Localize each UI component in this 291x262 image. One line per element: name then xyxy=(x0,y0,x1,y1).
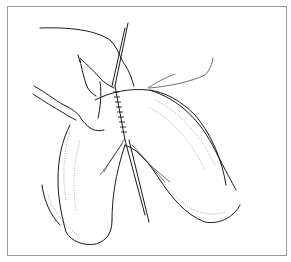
hand-illustration xyxy=(33,28,134,131)
suture-threads xyxy=(148,58,213,88)
bowel-anastomosis-illustration xyxy=(0,0,291,262)
instrument-illustration xyxy=(112,23,149,222)
